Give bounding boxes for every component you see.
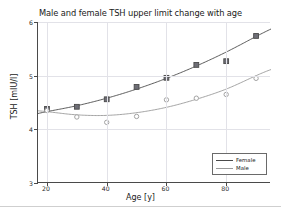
data-point-female	[194, 63, 199, 68]
chart-legend: Female Male	[212, 153, 267, 175]
series-line-female	[38, 29, 271, 113]
gridline-horizontal	[38, 76, 270, 77]
page-bottom-rule	[0, 206, 281, 207]
data-point-male	[134, 114, 138, 118]
data-point-male	[75, 115, 79, 119]
gridline-horizontal	[38, 129, 270, 130]
gridline-vertical	[166, 22, 167, 182]
legend-entry-male: Male	[215, 164, 264, 172]
y-tick-label: 5	[22, 72, 33, 79]
data-point-female	[254, 34, 259, 39]
data-point-male	[254, 76, 258, 80]
y-tick	[34, 76, 38, 77]
x-tick-label: 60	[162, 185, 170, 192]
gridline-vertical	[47, 22, 48, 182]
y-tick	[34, 22, 38, 23]
y-axis-title: TSH [mIU/l]	[10, 37, 19, 157]
data-point-male	[194, 96, 198, 100]
y-tick-label: 6	[22, 19, 33, 26]
legend-swatch-male	[216, 168, 233, 169]
y-tick-label: 4	[22, 126, 33, 133]
y-tick	[34, 129, 38, 130]
legend-label-female: Female	[236, 156, 256, 164]
legend-label-male: Male	[236, 164, 249, 172]
x-tick-label: 40	[102, 185, 110, 192]
gridline-vertical	[107, 22, 108, 182]
x-axis-title: Age [y]	[0, 193, 281, 202]
data-point-female	[134, 85, 139, 90]
data-point-female	[74, 104, 79, 109]
gridline-horizontal	[38, 22, 270, 23]
y-tick-label: 3	[22, 180, 33, 187]
chart-figure: Male and female TSH upper limit change w…	[0, 0, 281, 212]
x-tick-label: 80	[221, 185, 229, 192]
legend-entry-female: Female	[215, 156, 264, 164]
chart-title: Male and female TSH upper limit change w…	[0, 8, 281, 18]
y-tick	[34, 183, 38, 184]
legend-swatch-female	[216, 160, 233, 161]
x-tick-label: 20	[42, 185, 50, 192]
